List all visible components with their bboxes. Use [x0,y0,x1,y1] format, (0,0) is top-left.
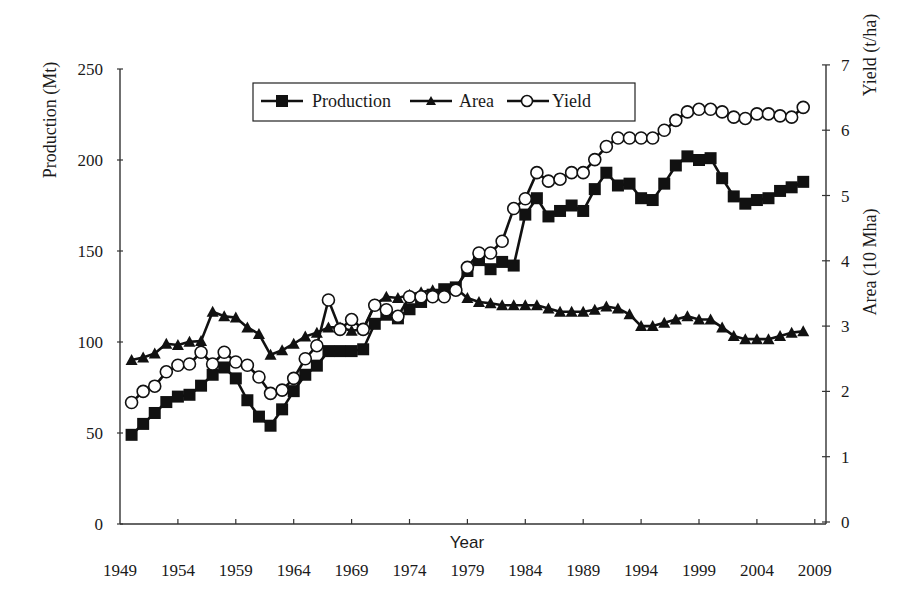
circle-marker [762,108,774,120]
circle-marker [739,112,751,124]
right-tick-label: 6 [841,121,850,140]
square-marker [566,200,578,212]
circle-marker [404,291,416,303]
triangle-marker [681,310,693,321]
circle-marker [589,154,601,166]
x-tick-label: 1949 [103,561,137,580]
x-tick-label: 2004 [740,561,775,580]
circle-marker [681,106,693,118]
circle-marker [183,358,195,370]
square-marker [126,429,138,441]
square-marker [542,210,554,222]
square-marker [276,403,288,415]
triangle-marker [253,328,265,339]
circle-marker [299,353,311,365]
circle-marker [554,173,566,185]
x-tick-label: 1969 [335,561,369,580]
square-marker [311,360,323,372]
circle-marker [450,284,462,296]
circle-marker [265,387,277,399]
x-tick-label: 1979 [450,561,484,580]
square-marker [693,154,705,166]
square-marker [241,394,253,406]
square-marker [496,256,508,268]
circle-marker [380,304,392,316]
circle-marker [438,291,450,303]
square-marker [658,178,670,190]
legend-circle-icon [522,96,533,107]
circle-marker [207,358,219,370]
circle-marker [670,114,682,126]
legend-square-icon [276,95,288,107]
left-tick-label: 100 [78,333,104,352]
left-tick-label: 250 [78,60,104,79]
x-tick-label: 1989 [566,561,600,580]
square-marker [600,167,612,179]
triangle-marker [207,306,219,317]
right-tick-label: 2 [841,382,850,401]
square-marker [589,183,601,195]
right-tick-label: 3 [841,317,850,336]
square-marker [739,198,751,210]
circle-marker [230,356,242,368]
circle-marker [346,314,358,326]
square-marker [160,396,172,408]
square-marker [705,152,717,164]
legend: ProductionAreaYield [253,83,635,121]
circle-marker [322,294,334,306]
circle-marker [218,346,230,358]
x-tick-label: 1974 [393,561,428,580]
square-marker [612,179,624,191]
circle-marker [415,291,427,303]
square-marker [137,418,149,430]
right-axis-title-yield: Yield (t/ha) [860,14,881,96]
right-tick-label: 7 [841,56,850,75]
circle-marker [624,132,636,144]
circle-marker [137,385,149,397]
square-marker [635,192,647,204]
circle-marker [705,103,717,115]
right-tick-label: 5 [841,187,850,206]
square-marker [149,407,161,419]
circle-marker [311,340,323,352]
square-marker [797,176,809,188]
circle-marker [357,323,369,335]
legend-label: Area [459,91,494,111]
circle-marker [253,371,265,383]
circle-marker [774,110,786,122]
square-marker [786,181,798,193]
x-tick-label: 1959 [219,561,253,580]
right-tick-label: 0 [841,513,850,532]
x-tick-label: 1964 [277,561,312,580]
left-tick-label: 50 [86,424,103,443]
square-marker [357,343,369,355]
square-marker [762,192,774,204]
left-tick-label: 200 [78,151,104,170]
square-marker [716,172,728,184]
circle-marker [786,111,798,123]
square-marker [346,345,358,357]
left-tick-label: 150 [78,242,104,261]
circle-marker [241,359,253,371]
square-marker [508,260,520,272]
x-axis-title: Year [450,533,485,552]
square-marker [218,361,230,373]
circle-marker [693,103,705,115]
square-marker [322,345,334,357]
circle-marker [797,101,809,113]
triangle-marker [288,338,300,349]
square-marker [288,385,300,397]
x-tick-label: 1994 [624,561,659,580]
circle-marker [519,193,531,205]
right-axis-title-area: Area (10 Mha) [860,209,881,316]
circle-marker [126,397,138,409]
circle-marker [149,380,161,392]
circle-marker [600,141,612,153]
x-tick-label: 1954 [161,561,196,580]
square-marker [774,185,786,197]
circle-marker [288,372,300,384]
circle-marker [751,108,763,120]
left-tick-label: 0 [95,515,104,534]
circle-marker [427,291,439,303]
circle-marker [369,299,381,311]
